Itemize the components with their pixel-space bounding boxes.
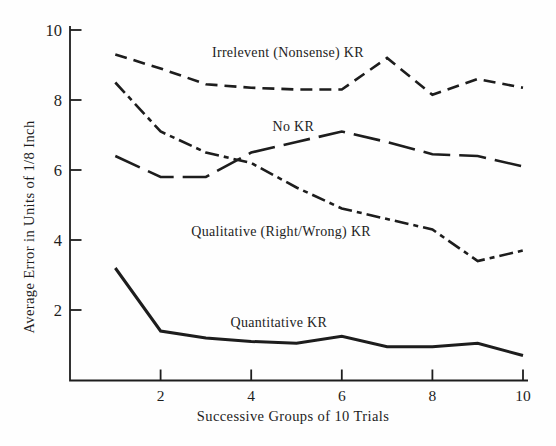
series-line-irrelevant-nonsense-kr (115, 55, 523, 95)
x-tick-label: 2 (157, 387, 165, 404)
series-group (115, 55, 523, 356)
x-tick-label: 4 (247, 387, 255, 404)
series-label-qualitative-kr: Qualitative (Right/Wrong) KR (191, 224, 371, 240)
x-axis-title: Successive Groups of 10 Trials (197, 408, 389, 424)
series-line-quantitative-kr (115, 268, 523, 356)
line-chart: 246810246810 Irrelevent (Nonsense) KRNo … (0, 0, 556, 446)
x-tick-label: 8 (429, 387, 437, 404)
series-line-no-kr (115, 132, 523, 178)
y-tick-label: 10 (46, 21, 63, 40)
x-tick-label: 6 (338, 387, 346, 404)
y-axis-title: Average Error in Units of 1/8 Inch (21, 120, 37, 333)
chart-figure: 246810246810 Irrelevent (Nonsense) KRNo … (0, 0, 556, 446)
series-label-no-kr: No KR (273, 119, 315, 134)
y-tick-label: 6 (54, 161, 62, 180)
series-label-irrelevant-nonsense-kr: Irrelevent (Nonsense) KR (212, 45, 364, 61)
axes-group: 246810246810 (46, 21, 532, 404)
series-label-quantitative-kr: Quantitative KR (231, 315, 328, 330)
x-tick-label: 10 (515, 387, 531, 404)
y-tick-label: 2 (54, 301, 62, 320)
y-tick-label: 8 (54, 91, 62, 110)
y-tick-label: 4 (54, 231, 62, 250)
